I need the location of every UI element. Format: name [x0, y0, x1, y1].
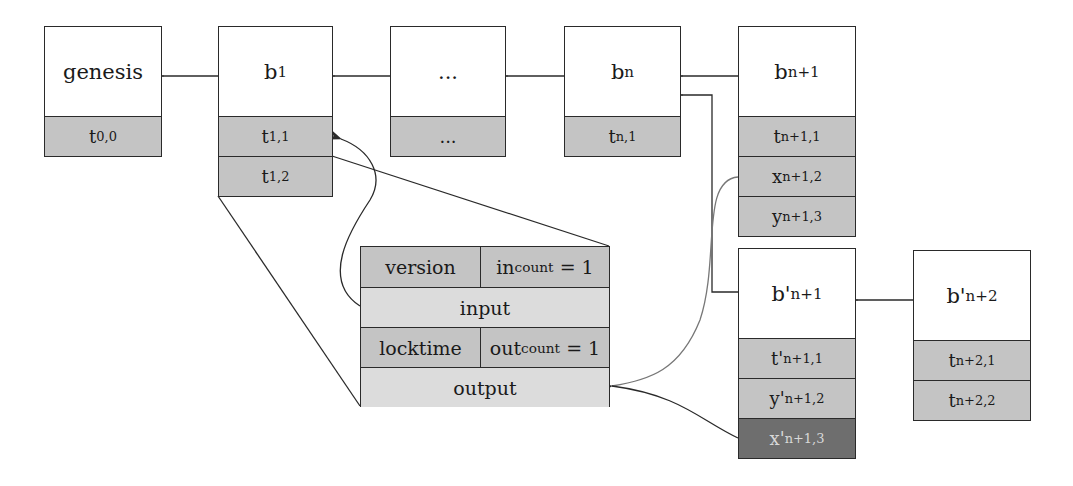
block-title: b'n+2: [914, 251, 1030, 341]
block-bprime-n1: b'n+1 t'n+1,1 y'n+1,2 x'n+1,3: [738, 248, 856, 459]
tx-cell: tn+2,2: [914, 380, 1030, 420]
block-title: genesis: [45, 27, 161, 117]
tx-cell: tn+1,1: [739, 116, 855, 156]
tx-cell: ...: [391, 116, 505, 156]
tx-out-count: outcount = 1: [481, 328, 609, 367]
tx-cell: tn+2,1: [914, 340, 1030, 380]
tx-cell: t0,0: [45, 116, 161, 156]
tx-cell: xn+1,2: [739, 156, 855, 196]
block-title: ...: [391, 27, 505, 117]
block-b1: b1 t1,1 t1,2: [218, 26, 333, 197]
block-title: bn: [565, 27, 680, 117]
tx-cell: t1,1: [219, 116, 332, 156]
arrow-xn12-output: [612, 177, 738, 386]
tx-in-count: incount = 1: [481, 247, 609, 287]
block-bn: bn tn,1: [564, 26, 681, 157]
tx-locktime: locktime: [361, 328, 481, 367]
tx-cell: t'n+1,1: [739, 338, 855, 378]
tx-cell: y'n+1,2: [739, 378, 855, 418]
block-title: bn+1: [739, 27, 855, 117]
tx-cell: t1,2: [219, 156, 332, 196]
tx-row-footer: locktime outcount = 1: [361, 327, 609, 367]
tx-cell: yn+1,3: [739, 196, 855, 236]
block-bn1: bn+1 tn+1,1 xn+1,2 yn+1,3: [738, 26, 856, 237]
tx-cell: tn,1: [565, 116, 680, 156]
block-genesis: genesis t0,0: [44, 26, 162, 157]
tx-row-header: version incount = 1: [361, 247, 609, 287]
tx-input: input: [361, 287, 609, 327]
transaction-detail: version incount = 1 input locktime outco…: [360, 246, 610, 407]
block-ellipsis: ... ...: [390, 26, 506, 157]
block-bprime-n2: b'n+2 tn+2,1 tn+2,2: [913, 250, 1031, 421]
tx-output: output: [361, 367, 609, 407]
block-title: b1: [219, 27, 332, 117]
tx-version: version: [361, 247, 481, 287]
tx-cell-highlighted: x'n+1,3: [739, 418, 855, 458]
block-title: b'n+1: [739, 249, 855, 339]
